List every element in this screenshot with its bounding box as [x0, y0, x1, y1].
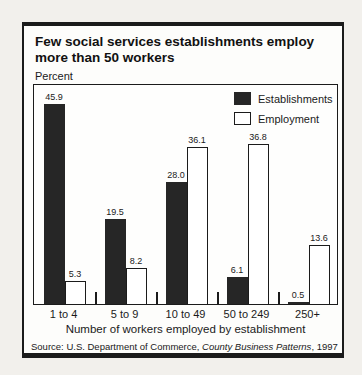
chart-title: Few social services establishments emplo… — [35, 34, 335, 65]
bar-establishments-250- — [288, 302, 309, 304]
x-axis-tick — [278, 292, 280, 304]
bar-value-label-employment-250-: 13.6 — [305, 234, 334, 243]
bar-value-label-employment-5-to-9: 8.2 — [122, 257, 151, 266]
plot-area: Establishments Employment 45.95.319.58.2… — [33, 84, 338, 305]
bar-value-label-establishments-5-to-9: 19.5 — [101, 208, 130, 217]
source-publication: County Business Patterns — [202, 341, 311, 352]
bar-employment-1-to-4 — [65, 281, 86, 304]
bar-employment-5-to-9 — [126, 268, 147, 304]
x-axis-label-50-to-249: 50 to 249 — [212, 308, 282, 320]
bar-establishments-50-to-249 — [227, 277, 248, 304]
bar-value-label-employment-50-to-249: 36.8 — [244, 133, 273, 142]
legend-label-employment: Employment — [258, 113, 319, 125]
x-axis-tick — [95, 292, 97, 304]
source-note: Source: U.S. Department of Commerce, Cou… — [31, 341, 343, 352]
x-axis-label-10-to-49: 10 to 49 — [151, 308, 221, 320]
x-axis-label-1-to-4: 1 to 4 — [29, 308, 99, 320]
x-axis-category-labels: 1 to 45 to 910 to 4950 to 249250+ — [33, 308, 338, 322]
x-axis-title: Number of workers employed by establishm… — [33, 323, 338, 335]
legend-item-employment: Employment — [234, 112, 333, 125]
bar-establishments-10-to-49 — [166, 182, 187, 304]
x-axis-label-250-: 250+ — [273, 308, 343, 320]
employment-swatch-icon — [234, 112, 251, 125]
legend: Establishments Employment — [234, 92, 333, 132]
bar-employment-10-to-49 — [187, 147, 208, 304]
source-suffix: , 1997 — [311, 341, 337, 352]
bar-value-label-establishments-1-to-4: 45.9 — [40, 93, 69, 102]
legend-item-establishments: Establishments — [234, 92, 333, 105]
x-axis-label-5-to-9: 5 to 9 — [90, 308, 160, 320]
y-axis-unit-label: Percent — [35, 70, 73, 82]
bar-value-label-employment-1-to-4: 5.3 — [61, 270, 90, 279]
bar-employment-250- — [309, 245, 330, 304]
page: { "panel": { "title": "Few social servic… — [0, 0, 362, 375]
x-axis-tick — [217, 292, 219, 304]
bar-value-label-employment-10-to-49: 36.1 — [183, 136, 212, 145]
legend-label-establishments: Establishments — [258, 93, 333, 105]
establishments-swatch-icon — [234, 92, 251, 105]
chart-panel: Few social services establishments emplo… — [22, 22, 344, 358]
x-axis-tick — [156, 292, 158, 304]
bar-employment-50-to-249 — [248, 144, 269, 304]
source-prefix: Source: U.S. Department of Commerce, — [31, 341, 202, 352]
